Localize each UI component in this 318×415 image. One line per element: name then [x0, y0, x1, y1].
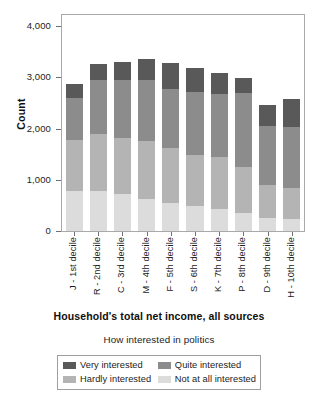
- bar-segment: [235, 213, 252, 231]
- bar-segment: [66, 84, 83, 98]
- bar-segment: [186, 155, 203, 207]
- bar-column: [114, 25, 131, 231]
- x-label-cell: R - 2nd decile: [90, 237, 107, 307]
- legend-grid: Very interestedQuite interestedHardly in…: [63, 359, 256, 386]
- legend-title: How interested in politics: [0, 334, 318, 345]
- bar-segment: [283, 127, 300, 188]
- x-tick-mark: [283, 232, 300, 236]
- bar-column: [235, 25, 252, 231]
- bar-segment: [66, 191, 83, 231]
- bar-segment: [114, 80, 131, 138]
- x-tick-label: M - 4th decile: [142, 237, 151, 294]
- x-tick-mark: [211, 232, 228, 236]
- x-axis-title: Household's total net income, all source…: [0, 310, 318, 322]
- x-tick-mark: [235, 232, 252, 236]
- bar-segment: [162, 89, 179, 147]
- stacked-bar-chart-figure: Count 4,000 3,000 2,000 1,000 0 J - 1st …: [0, 0, 318, 415]
- x-label-cell: H - 10th decile: [283, 237, 300, 307]
- bar-segment: [66, 140, 83, 191]
- x-tick-label: D - 9th decile: [263, 237, 272, 293]
- plot-area: [61, 14, 305, 232]
- legend-color-swatch: [158, 362, 171, 369]
- bar-segment: [186, 92, 203, 155]
- bar-segment: [114, 62, 131, 80]
- bar-segment: [283, 219, 300, 231]
- x-label-cell: D - 9th decile: [259, 237, 276, 307]
- bar-segment: [235, 78, 252, 93]
- bar-column: [259, 25, 276, 231]
- legend-item-label: Not at all interested: [175, 375, 256, 384]
- bar-column: [138, 25, 155, 231]
- bar-segment: [90, 134, 107, 191]
- legend-color-swatch: [63, 376, 76, 383]
- legend-box: Very interestedQuite interestedHardly in…: [57, 355, 261, 390]
- bar-segment: [259, 105, 276, 126]
- bar-segment: [259, 126, 276, 185]
- bar-column: [283, 25, 300, 231]
- bar-column: [162, 25, 179, 231]
- bar-segment: [138, 199, 155, 231]
- x-axis: J - 1st decileR - 2nd decileC - 3rd deci…: [61, 232, 305, 308]
- bar-segment: [283, 99, 300, 127]
- legend-item: Very interested: [63, 359, 156, 373]
- y-tick-label-4000: 4,000: [27, 21, 51, 31]
- x-tick-label: P - 8th decile: [239, 237, 248, 292]
- x-tick-labels: J - 1st decileR - 2nd decileC - 3rd deci…: [62, 237, 304, 307]
- bars-layer: [62, 25, 304, 231]
- bar-segment: [90, 64, 107, 81]
- x-tick-mark: [114, 232, 131, 236]
- bar-column: [66, 25, 83, 231]
- x-tick-marks: [62, 232, 304, 236]
- bar-segment: [211, 94, 228, 157]
- x-tick-label: K - 7th decile: [215, 237, 224, 292]
- bar-segment: [162, 63, 179, 89]
- x-tick-label: F - 5th decile: [166, 237, 175, 292]
- bar-segment: [235, 167, 252, 213]
- bar-segment: [211, 209, 228, 231]
- bar-segment: [90, 80, 107, 133]
- bar-segment: [211, 73, 228, 95]
- bar-column: [211, 25, 228, 231]
- bar-segment: [283, 188, 300, 219]
- y-axis-title: Count: [15, 84, 27, 144]
- x-label-cell: J - 1st decile: [66, 237, 83, 307]
- x-label-cell: P - 8th decile: [235, 237, 252, 307]
- x-label-cell: C - 3rd decile: [114, 237, 131, 307]
- bar-segment: [138, 59, 155, 80]
- bar-segment: [90, 191, 107, 231]
- y-tick-label-2000: 2,000: [27, 124, 51, 134]
- x-tick-label: S - 6th decile: [190, 237, 199, 292]
- x-tick-mark: [259, 232, 276, 236]
- x-tick-label: H - 10th decile: [287, 237, 296, 298]
- bar-segment: [186, 68, 203, 92]
- bar-segment: [235, 93, 252, 168]
- y-axis: Count 4,000 3,000 2,000 1,000 0: [0, 0, 61, 415]
- legend-color-swatch: [158, 376, 171, 383]
- bar-segment: [186, 206, 203, 231]
- bar-segment: [162, 203, 179, 231]
- bar-column: [186, 25, 203, 231]
- x-tick-mark: [90, 232, 107, 236]
- legend-item-label: Quite interested: [175, 361, 241, 370]
- legend-item-label: Very interested: [80, 361, 143, 370]
- x-tick-label: R - 2nd decile: [94, 237, 103, 295]
- x-tick-label: C - 3rd decile: [118, 237, 127, 293]
- bar-segment: [66, 98, 83, 141]
- bar-segment: [138, 80, 155, 141]
- bar-segment: [162, 148, 179, 203]
- legend-item: Hardly interested: [63, 373, 156, 387]
- legend-color-swatch: [63, 362, 76, 369]
- y-tick-label-3000: 3,000: [27, 72, 51, 82]
- x-label-cell: S - 6th decile: [186, 237, 203, 307]
- y-tick-label-1000: 1,000: [27, 175, 51, 185]
- x-label-cell: F - 5th decile: [162, 237, 179, 307]
- bar-segment: [259, 185, 276, 217]
- bar-segment: [259, 218, 276, 231]
- x-tick-label: J - 1st decile: [69, 237, 78, 290]
- bar-segment: [114, 194, 131, 231]
- x-tick-mark: [162, 232, 179, 236]
- bar-segment: [114, 138, 131, 193]
- y-tick-label-0: 0: [46, 226, 51, 236]
- x-tick-mark: [138, 232, 155, 236]
- bar-segment: [138, 141, 155, 199]
